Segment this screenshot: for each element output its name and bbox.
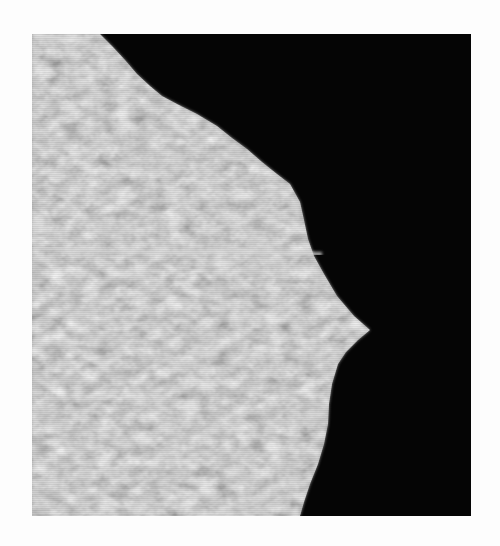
- micrograph-image: [32, 34, 471, 516]
- micrograph-graphic: [32, 34, 471, 516]
